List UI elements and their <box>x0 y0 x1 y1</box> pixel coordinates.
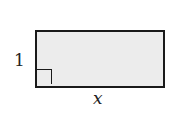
rectangle <box>35 30 165 88</box>
side-length-label: 1 <box>14 50 25 70</box>
base-length-label: x <box>93 88 103 108</box>
right-angle-marker-icon <box>37 69 52 84</box>
